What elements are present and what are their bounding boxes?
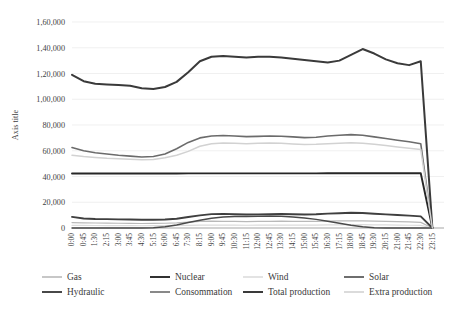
x-tick-label: 3:00 (114, 233, 123, 246)
series-line-total-production (72, 49, 432, 228)
line-chart: 020,00040,00060,00080,0001,00,0001,20,00… (0, 0, 455, 313)
x-tick-label: 6:45 (172, 233, 181, 246)
x-tick-label: 3:45 (125, 233, 134, 246)
x-axis-tick-labels: 0:000:451:302:153:003:454:305:156:006:45… (67, 233, 436, 250)
x-tick-label: 8:15 (195, 233, 204, 246)
x-tick-label: 22:30 (416, 233, 425, 250)
x-tick-label: 17:15 (335, 233, 344, 250)
y-axis-title: Axis title (11, 110, 20, 141)
x-tick-label: 14:15 (288, 233, 297, 250)
x-tick-label: 20:15 (381, 233, 390, 250)
x-tick-label: 12:00 (253, 233, 262, 250)
x-tick-label: 11:15 (242, 233, 251, 250)
chart-container: 020,00040,00060,00080,0001,00,0001,20,00… (0, 0, 455, 313)
y-axis-tick-labels: 020,00040,00060,00080,0001,00,0001,20,00… (36, 18, 65, 233)
legend-item-nuclear[interactable]: Nuclear (150, 272, 206, 282)
x-tick-label: 2:15 (102, 233, 111, 246)
y-tick-label: 40,000 (42, 173, 65, 182)
y-tick-label: 0 (61, 224, 65, 233)
legend-label: Nuclear (175, 272, 206, 282)
y-tick-label: 60,000 (42, 147, 65, 156)
x-tick-label: 6:00 (160, 233, 169, 246)
legend-label: Gas (67, 272, 82, 282)
gridlines (72, 22, 444, 228)
x-tick-label: 13:30 (276, 233, 285, 250)
x-tick-label: 23:15 (428, 233, 437, 250)
legend-item-solar[interactable]: Solar (344, 272, 390, 282)
x-tick-label: 9:45 (218, 233, 227, 246)
x-tick-label: 15:45 (311, 233, 320, 250)
legend-item-extra-production[interactable]: Extra production (344, 287, 433, 297)
legend-item-total-production[interactable]: Total production (243, 287, 330, 297)
x-tick-label: 21:00 (393, 233, 402, 250)
legend-item-wind[interactable]: Wind (243, 272, 289, 282)
chart-legend: GasNuclearWindSolarHydraulicConsommation… (42, 272, 433, 297)
x-tick-label: 19:30 (369, 233, 378, 250)
y-tick-label: 1,60,000 (36, 18, 65, 27)
y-tick-label: 80,000 (42, 121, 65, 130)
legend-item-hydraulic[interactable]: Hydraulic (42, 287, 105, 297)
x-tick-label: 5:15 (149, 233, 158, 246)
x-tick-label: 18:45 (358, 233, 367, 250)
legend-label: Wind (268, 272, 289, 282)
x-tick-label: 4:30 (137, 233, 146, 246)
x-tick-label: 7:30 (183, 233, 192, 246)
x-tick-label: 21:45 (404, 233, 413, 250)
x-tick-label: 1:30 (90, 233, 99, 246)
x-tick-label: 12:45 (265, 233, 274, 250)
y-tick-label: 1,40,000 (36, 44, 65, 53)
x-tick-label: 0:00 (67, 233, 76, 246)
y-tick-label: 20,000 (42, 198, 65, 207)
x-tick-label: 15:00 (300, 233, 309, 250)
legend-label: Solar (369, 272, 390, 282)
legend-item-gas[interactable]: Gas (42, 272, 82, 282)
y-tick-label: 1,00,000 (36, 95, 65, 104)
x-tick-label: 0:45 (79, 233, 88, 246)
y-axis-title-text: Axis title (11, 110, 20, 141)
x-tick-label: 10:30 (230, 233, 239, 250)
legend-label: Total production (268, 287, 330, 297)
legend-label: Extra production (369, 287, 433, 297)
x-tick-label: 9:00 (207, 233, 216, 246)
y-tick-label: 1,20,000 (36, 70, 65, 79)
series-lines (72, 49, 432, 228)
x-tick-label: 16:30 (323, 233, 332, 250)
legend-label: Hydraulic (67, 287, 105, 297)
x-tick-label: 18:00 (346, 233, 355, 250)
legend-label: Consommation (175, 287, 233, 297)
legend-item-consommation[interactable]: Consommation (150, 287, 233, 297)
